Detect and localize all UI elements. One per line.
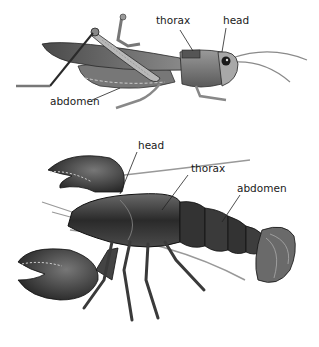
grasshopper-figure: thorax head abdomen [0,0,319,130]
lobster-label-abdomen: abdomen [237,183,287,194]
grasshopper-label-thorax: thorax [156,15,190,26]
lobster-label-thorax: thorax [191,163,225,174]
lobster-label-head: head [138,140,164,151]
grasshopper-label-abdomen: abdomen [50,96,100,107]
lobster-illustration [0,130,319,347]
lobster-figure: head thorax abdomen [0,130,319,347]
grasshopper-label-head: head [223,15,249,26]
